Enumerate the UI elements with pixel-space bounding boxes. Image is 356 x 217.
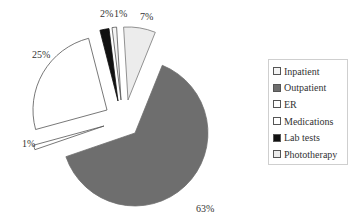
- legend-swatch: [273, 150, 281, 158]
- slice-label-outpatient: 63%: [196, 203, 214, 214]
- legend-label: Outpatient: [284, 82, 326, 93]
- legend-label: Lab tests: [284, 132, 320, 143]
- legend-swatch: [273, 67, 281, 75]
- legend-label: ER: [284, 99, 297, 110]
- pie-slice-phototherapy: [124, 27, 156, 100]
- legend-swatch: [273, 117, 281, 125]
- legend-label: Inpatient: [284, 66, 320, 77]
- legend-item-er: ER: [273, 96, 347, 113]
- legend-item-inpatient: Inpatient: [273, 63, 347, 80]
- legend-item-phototherapy: Phototherapy: [273, 146, 347, 163]
- legend-swatch: [273, 100, 281, 108]
- slice-label-phototherapy: 7%: [140, 11, 153, 22]
- legend-swatch: [273, 134, 281, 142]
- slice-label-lab-tests: 2%: [100, 8, 113, 19]
- legend-item-lab-tests: Lab tests: [273, 129, 347, 146]
- slice-label-inpatient: 1%: [114, 8, 127, 19]
- legend-label: Phototherapy: [284, 149, 337, 160]
- legend-swatch: [273, 84, 281, 92]
- pie-slice-er: [34, 126, 104, 150]
- slice-label-medications: 25%: [32, 49, 50, 60]
- pie-slices: [33, 27, 208, 206]
- slice-label-er: 1%: [22, 138, 35, 149]
- legend-item-outpatient: Outpatient: [273, 80, 347, 97]
- legend-item-medications: Medications: [273, 113, 347, 130]
- chart-legend: Inpatient Outpatient ER Medications Lab …: [268, 59, 348, 165]
- legend-label: Medications: [284, 116, 333, 127]
